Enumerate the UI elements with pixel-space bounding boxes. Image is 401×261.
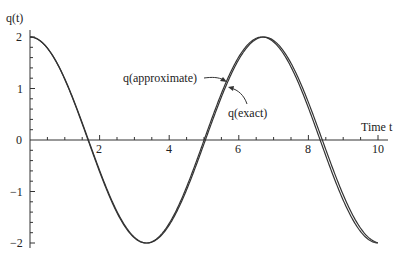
y-tick-label-2: 2 [16,30,22,44]
approximate-arrow [204,77,224,80]
y-tick-label-0: 0 [16,133,22,147]
x-tick-label-8: 8 [305,142,311,156]
y-tick-label-m2: −2 [10,236,23,250]
exact-arrowhead [228,86,234,91]
y-tick-label-m1: −1 [10,185,23,199]
x-tick-label-2: 2 [96,142,102,156]
approximate-arrowhead [220,77,227,82]
y-tick-label-1: 1 [17,82,23,96]
x-axis-label: Time t [361,120,393,134]
x-tick-label-10: 10 [372,142,384,156]
y-axis-label: q(t) [6,11,23,25]
x-tick-label-4: 4 [166,142,172,156]
chart-canvas: q(t) 2 1 0 −1 −2 2 4 6 8 10 Time t q(app… [0,0,401,261]
exact-arrow [231,88,247,104]
exact-annotation: q(exact) [228,106,267,120]
approximate-annotation: q(approximate) [123,71,197,85]
x-tick-label-6: 6 [235,142,241,156]
